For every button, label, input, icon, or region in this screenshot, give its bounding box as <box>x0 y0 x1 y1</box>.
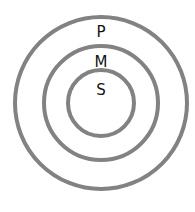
inner-ring-label: S <box>96 81 106 99</box>
outer-ring <box>15 17 187 189</box>
inner-ring <box>68 70 134 136</box>
concentric-diagram: P M S <box>0 0 195 212</box>
middle-ring-label: M <box>95 53 108 71</box>
outer-ring-label: P <box>96 23 105 41</box>
